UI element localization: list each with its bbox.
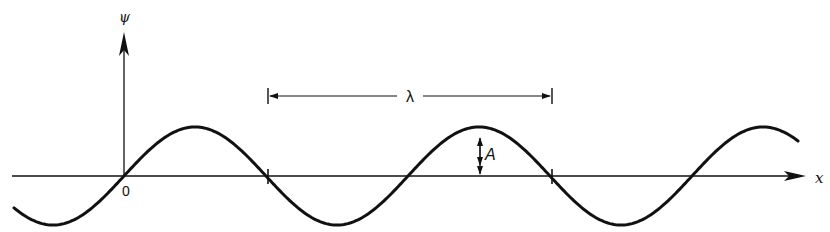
wavelength-label: λ xyxy=(406,88,414,105)
y-axis-label: ψ xyxy=(119,9,131,25)
amplitude-label: A xyxy=(484,146,496,163)
wave-diagram: x ψ 0 λ A xyxy=(0,0,830,232)
x-axis-label: x xyxy=(815,169,824,187)
origin-label: 0 xyxy=(122,183,130,199)
